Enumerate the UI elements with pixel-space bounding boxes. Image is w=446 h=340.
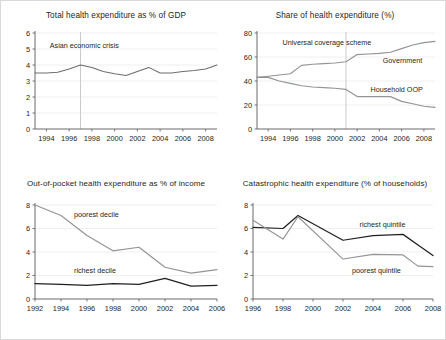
x-tick-label: 1998	[275, 304, 291, 313]
y-tick-label: 40	[244, 77, 252, 86]
x-tick-label: 2004	[183, 304, 199, 313]
series-line-richest-quintile	[253, 216, 433, 256]
x-tick-label: 2002	[129, 134, 145, 143]
chart-plot: 02468 19921994199619982000200220042006 p…	[9, 179, 223, 331]
chart-annotation: Household OOP	[370, 85, 423, 94]
x-tick-label: 2004	[152, 134, 168, 143]
chart-panel-out-of-pocket-share-income: Out-of-pocket health expenditure as % of…	[9, 179, 223, 331]
y-tick-label: 0	[248, 125, 252, 134]
annotations: Asian economic crisis	[50, 41, 120, 50]
y-tick-label: 3	[26, 77, 30, 86]
x-tick-labels: 19921994199619982000200220042006	[27, 304, 225, 313]
y-tick-label: 1	[26, 109, 30, 118]
chart-panel-total-health-expenditure: Total health expenditure as % of GDP 012…	[9, 11, 223, 161]
x-tick-label: 2004	[371, 134, 387, 143]
x-tick-label: 2006	[175, 134, 191, 143]
x-tick-label: 1998	[84, 134, 100, 143]
chart-annotation: richest decile	[74, 266, 116, 275]
annotations: poorest decilerichest decile	[74, 210, 119, 275]
y-tick-label: 20	[244, 101, 252, 110]
y-tick-label: 60	[244, 53, 252, 62]
annotations: Universal coverage schemeGovernmentHouse…	[283, 38, 423, 94]
data-series	[35, 205, 217, 286]
x-tick-label: 2002	[157, 304, 173, 313]
series-line-richest-decile	[35, 278, 217, 286]
series-line-total-health-expenditure-as-of-gdp	[35, 65, 217, 75]
x-tick-label: 2002	[335, 304, 351, 313]
x-tick-label: 2000	[327, 134, 343, 143]
chart-plot: 020406080 199419961998200020022004200620…	[229, 11, 441, 161]
y-tick-labels: 02468	[26, 201, 30, 304]
y-tick-label: 0	[26, 125, 30, 134]
y-tick-label: 5	[26, 45, 30, 54]
chart-annotation: poorest quintile	[352, 266, 401, 275]
y-tick-labels: 0123456	[26, 29, 30, 134]
x-tick-label: 2000	[131, 304, 147, 313]
chart-panel-share-health-expenditure: Share of health expenditure (%) 02040608…	[229, 11, 441, 161]
y-tick-label: 2	[244, 271, 248, 280]
x-tick-labels: 19941996199820002002200420062008	[260, 134, 432, 143]
y-tick-label: 2	[26, 93, 30, 102]
y-tick-label: 4	[26, 248, 30, 257]
annotations: richest quintilepoorest quintile	[352, 220, 405, 275]
y-tick-label: 8	[244, 201, 248, 210]
x-tick-label: 2000	[305, 304, 321, 313]
y-tick-label: 0	[244, 295, 248, 304]
chart-plot: 02468 1996199820002002200420062008 riche…	[229, 179, 441, 331]
y-tick-label: 8	[26, 201, 30, 210]
x-tick-label: 2008	[425, 304, 441, 313]
x-tick-label: 1996	[282, 134, 298, 143]
y-tick-labels: 020406080	[244, 29, 252, 134]
y-tick-label: 4	[244, 248, 248, 257]
x-tick-label: 2006	[209, 304, 225, 313]
chart-plot: 0123456 19941996199820002002200420062008…	[9, 11, 223, 161]
y-tick-label: 80	[244, 29, 252, 38]
x-tick-label: 1996	[79, 304, 95, 313]
x-tick-label: 1998	[304, 134, 320, 143]
y-tick-label: 4	[26, 61, 30, 70]
y-tick-label: 0	[26, 295, 30, 304]
x-tick-label: 1998	[105, 304, 121, 313]
series-line-poorest-decile	[35, 205, 217, 273]
y-tick-label: 2	[26, 271, 30, 280]
x-tick-label: 1994	[53, 304, 69, 313]
x-tick-label: 1992	[27, 304, 43, 313]
figure-canvas: Total health expenditure as % of GDP 012…	[0, 0, 446, 340]
series-line-poorest-quintile	[253, 217, 433, 267]
x-tick-labels: 19941996199820002002200420062008	[38, 134, 214, 143]
x-tick-label: 2006	[393, 134, 409, 143]
x-tick-label: 2008	[197, 134, 213, 143]
x-tick-label: 1994	[38, 134, 54, 143]
gridlines	[35, 205, 217, 276]
y-tick-labels: 02468	[244, 201, 248, 304]
chart-panel-catastrophic-health-expenditure: Catastrophic health expenditure (% of ho…	[229, 179, 441, 331]
chart-annotation: Asian economic crisis	[50, 41, 120, 50]
y-tick-label: 6	[244, 224, 248, 233]
y-tick-label: 6	[26, 224, 30, 233]
x-tick-label: 1996	[61, 134, 77, 143]
x-tick-label: 2008	[416, 134, 432, 143]
x-tick-label: 2004	[365, 304, 381, 313]
x-tick-label: 2006	[395, 304, 411, 313]
data-series	[35, 65, 217, 75]
x-tick-label: 2000	[106, 134, 122, 143]
chart-annotation: richest quintile	[360, 220, 406, 229]
x-tick-label: 1996	[245, 304, 261, 313]
chart-annotation: Government	[383, 56, 423, 65]
data-series	[253, 216, 433, 267]
x-tick-label: 2002	[349, 134, 365, 143]
chart-annotation: poorest decile	[74, 210, 119, 219]
x-tick-label: 1994	[260, 134, 276, 143]
chart-annotation: Universal coverage scheme	[283, 38, 372, 47]
x-tick-labels: 1996199820002002200420062008	[245, 304, 441, 313]
y-tick-label: 6	[26, 29, 30, 38]
